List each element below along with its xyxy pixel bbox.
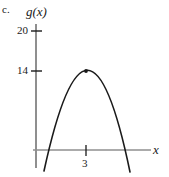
parabola-curve (44, 70, 130, 172)
plot-area (0, 0, 169, 177)
marked-point (84, 69, 88, 73)
figure-panel: c. g(x) x 20 14 3 (0, 0, 169, 177)
